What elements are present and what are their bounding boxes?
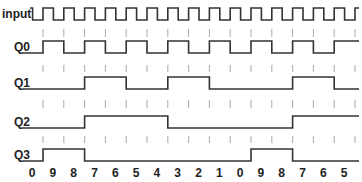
signal-label-q0: Q0 <box>14 40 30 54</box>
signal-label-q2: Q2 <box>14 115 30 129</box>
count-digit: 3 <box>174 166 181 180</box>
waveform-q1 <box>22 77 359 89</box>
signal-label-q3: Q3 <box>14 148 30 162</box>
count-digit: 2 <box>195 166 202 180</box>
count-digit: 8 <box>278 166 285 180</box>
waveforms <box>22 8 359 161</box>
count-sequence: 0987654321098765 <box>29 166 348 180</box>
count-digit: 6 <box>320 166 327 180</box>
count-digit: 1 <box>216 166 223 180</box>
count-digit: 8 <box>70 166 77 180</box>
count-digit: 6 <box>112 166 119 180</box>
clock-tick-marks <box>43 29 355 143</box>
count-digit: 7 <box>299 166 306 180</box>
count-digit: 7 <box>91 166 98 180</box>
count-digit: 5 <box>341 166 348 180</box>
count-digit: 4 <box>154 166 161 180</box>
waveform-input <box>30 8 359 20</box>
count-digit: 9 <box>50 166 57 180</box>
signal-label-input: input <box>2 7 31 21</box>
signal-labels: inputQ0Q1Q2Q3 <box>2 7 31 162</box>
count-digit: 5 <box>133 166 140 180</box>
count-digit: 9 <box>258 166 265 180</box>
waveform-q2 <box>22 116 359 128</box>
count-digit: 0 <box>29 166 36 180</box>
timing-diagram: inputQ0Q1Q2Q3 0987654321098765 <box>0 0 362 182</box>
count-digit: 0 <box>237 166 244 180</box>
signal-label-q1: Q1 <box>14 76 30 90</box>
waveform-q3 <box>22 149 359 161</box>
waveform-q0 <box>22 41 359 53</box>
